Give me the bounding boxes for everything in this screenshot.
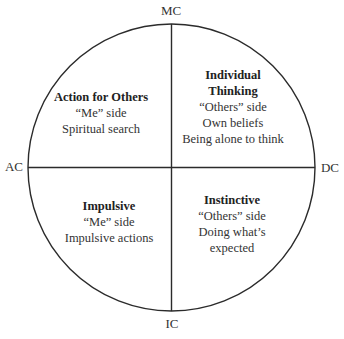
axis-label-ic: IC: [166, 316, 179, 332]
quadrant-line: Being alone to think: [182, 131, 284, 147]
circle-diagram: [0, 0, 344, 339]
quadrant-line: expected: [198, 240, 266, 256]
quadrant-line: “Others” side: [182, 99, 284, 115]
quadrant-line: Own beliefs: [182, 115, 284, 131]
axis-label-ac: AC: [5, 159, 23, 175]
quadrant-line: Impulsive actions: [65, 230, 154, 246]
quadrant-top-left: Action for Others “Me” side Spiritual se…: [54, 89, 148, 137]
quadrant-title: Instinctive: [198, 192, 266, 208]
quadrant-line: Doing what’s: [198, 224, 266, 240]
quadrant-bottom-left: Impulsive “Me” side Impulsive actions: [65, 198, 154, 246]
quadrant-title: Action for Others: [54, 89, 148, 105]
axis-label-dc: DC: [321, 160, 339, 176]
quadrant-top-right: Individual Thinking “Others” side Own be…: [182, 67, 284, 147]
quadrant-line: “Me” side: [54, 105, 148, 121]
quadrant-title: Thinking: [182, 83, 284, 99]
quadrant-line: “Others” side: [198, 208, 266, 224]
quadrant-title: Individual: [182, 67, 284, 83]
quadrant-line: Spiritual search: [54, 121, 148, 137]
quadrant-line: “Me” side: [65, 214, 154, 230]
axis-label-mc: MC: [161, 3, 181, 19]
quadrant-title: Impulsive: [65, 198, 154, 214]
quadrant-bottom-right: Instinctive “Others” side Doing what’s e…: [198, 192, 266, 256]
